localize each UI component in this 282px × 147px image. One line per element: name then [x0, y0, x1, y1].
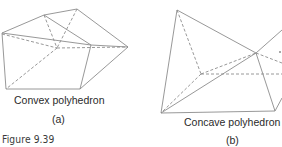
- concave-polyhedron-drawing: [161, 10, 282, 113]
- vertex-dot: [279, 51, 281, 53]
- panel-b-title: Concave polyhedron: [184, 116, 280, 128]
- convex-polyhedron-drawing: [2, 9, 128, 89]
- figure-caption: Figure 9.39: [2, 134, 55, 145]
- panel-a-title: Convex polyhedron: [14, 94, 104, 106]
- panel-a-sublabel: (a): [52, 113, 65, 125]
- panel-b-sublabel: (b): [226, 134, 239, 146]
